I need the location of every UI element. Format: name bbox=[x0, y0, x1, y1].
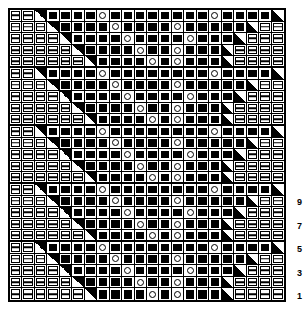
knit-stitch-cell bbox=[135, 68, 147, 80]
knit-stitch-cell bbox=[72, 33, 84, 45]
knit-stitch-cell bbox=[60, 196, 72, 208]
yarn-over-cell bbox=[97, 68, 109, 80]
knit-stitch-cell bbox=[135, 80, 147, 92]
purl-stitch-cell bbox=[10, 138, 22, 150]
decrease-right-cell bbox=[72, 45, 84, 57]
purl-stitch-cell bbox=[272, 149, 284, 161]
knit-stitch-cell bbox=[72, 265, 84, 277]
decrease-right-cell bbox=[85, 56, 97, 68]
purl-stitch-cell bbox=[272, 265, 284, 277]
knit-stitch-cell bbox=[85, 33, 97, 45]
knit-stitch-cell bbox=[97, 196, 109, 208]
purl-stitch-cell bbox=[35, 254, 47, 266]
decrease-right-cell bbox=[47, 138, 59, 150]
decrease-left-cell bbox=[272, 184, 284, 196]
decrease-right-cell bbox=[60, 149, 72, 161]
knit-stitch-cell bbox=[85, 22, 97, 34]
purl-stitch-cell bbox=[259, 288, 271, 300]
purl-stitch-cell bbox=[259, 22, 271, 34]
decrease-right-cell bbox=[60, 265, 72, 277]
decrease-right-cell bbox=[35, 10, 47, 22]
knit-stitch-cell bbox=[97, 91, 109, 103]
purl-stitch-cell bbox=[60, 56, 72, 68]
knit-stitch-cell bbox=[222, 265, 234, 277]
knit-stitch-cell bbox=[147, 80, 159, 92]
row-number-label: 5 bbox=[297, 244, 302, 254]
purl-stitch-cell bbox=[22, 242, 34, 254]
knit-stitch-cell bbox=[209, 254, 221, 266]
knit-stitch-cell bbox=[85, 149, 97, 161]
purl-stitch-cell bbox=[10, 161, 22, 173]
purl-stitch-cell bbox=[234, 277, 246, 289]
purl-stitch-cell bbox=[272, 33, 284, 45]
decrease-right-cell bbox=[60, 33, 72, 45]
knit-stitch-cell bbox=[197, 172, 209, 184]
purl-stitch-cell bbox=[35, 161, 47, 173]
knit-stitch-cell bbox=[97, 56, 109, 68]
purl-stitch-cell bbox=[259, 277, 271, 289]
purl-stitch-cell bbox=[22, 103, 34, 115]
decrease-left-cell bbox=[222, 114, 234, 126]
knit-stitch-cell bbox=[60, 10, 72, 22]
purl-stitch-cell bbox=[22, 126, 34, 138]
purl-stitch-cell bbox=[272, 22, 284, 34]
knit-stitch-cell bbox=[147, 277, 159, 289]
purl-stitch-cell bbox=[259, 45, 271, 57]
decrease-right-cell bbox=[85, 288, 97, 300]
knit-stitch-cell bbox=[159, 33, 171, 45]
purl-stitch-cell bbox=[10, 103, 22, 115]
decrease-left-cell bbox=[247, 80, 259, 92]
knit-stitch-cell bbox=[209, 33, 221, 45]
knit-stitch-cell bbox=[197, 184, 209, 196]
knit-stitch-cell bbox=[85, 254, 97, 266]
purl-stitch-cell bbox=[234, 161, 246, 173]
purl-stitch-cell bbox=[247, 230, 259, 242]
yarn-over-cell bbox=[135, 45, 147, 57]
row-number-label: 9 bbox=[297, 197, 302, 207]
purl-stitch-cell bbox=[259, 149, 271, 161]
yarn-over-cell bbox=[135, 161, 147, 173]
row-number-label: 7 bbox=[297, 221, 302, 231]
knit-stitch-cell bbox=[209, 196, 221, 208]
knit-stitch-cell bbox=[147, 184, 159, 196]
knit-stitch-cell bbox=[184, 138, 196, 150]
knit-stitch-cell bbox=[110, 184, 122, 196]
purl-stitch-cell bbox=[10, 288, 22, 300]
knit-stitch-cell bbox=[122, 242, 134, 254]
knit-stitch-cell bbox=[234, 68, 246, 80]
knit-stitch-cell bbox=[122, 277, 134, 289]
knit-stitch-cell bbox=[110, 219, 122, 231]
decrease-right-cell bbox=[47, 196, 59, 208]
knit-stitch-cell bbox=[147, 22, 159, 34]
knit-stitch-cell bbox=[147, 219, 159, 231]
knit-stitch-cell bbox=[159, 254, 171, 266]
knit-stitch-cell bbox=[110, 114, 122, 126]
knit-stitch-cell bbox=[110, 172, 122, 184]
purl-stitch-cell bbox=[35, 277, 47, 289]
knit-stitch-cell bbox=[159, 161, 171, 173]
knit-stitch-cell bbox=[60, 242, 72, 254]
purl-stitch-cell bbox=[259, 254, 271, 266]
decrease-right-cell bbox=[72, 219, 84, 231]
purl-stitch-cell bbox=[10, 277, 22, 289]
decrease-left-cell bbox=[247, 196, 259, 208]
knit-stitch-cell bbox=[122, 161, 134, 173]
purl-stitch-cell bbox=[272, 114, 284, 126]
purl-stitch-cell bbox=[47, 207, 59, 219]
yarn-over-cell bbox=[122, 33, 134, 45]
yarn-over-cell bbox=[135, 277, 147, 289]
purl-stitch-cell bbox=[35, 230, 47, 242]
knit-stitch-cell bbox=[135, 149, 147, 161]
knit-stitch-cell bbox=[159, 56, 171, 68]
knit-stitch-cell bbox=[234, 22, 246, 34]
purl-stitch-cell bbox=[259, 265, 271, 277]
knit-stitch-cell bbox=[85, 45, 97, 57]
knit-stitch-cell bbox=[72, 196, 84, 208]
purl-stitch-cell bbox=[259, 230, 271, 242]
yarn-over-cell bbox=[184, 33, 196, 45]
decrease-right-cell bbox=[47, 80, 59, 92]
knit-stitch-cell bbox=[97, 80, 109, 92]
decrease-right-cell bbox=[35, 68, 47, 80]
yarn-over-cell bbox=[172, 230, 184, 242]
knit-stitch-cell bbox=[122, 103, 134, 115]
